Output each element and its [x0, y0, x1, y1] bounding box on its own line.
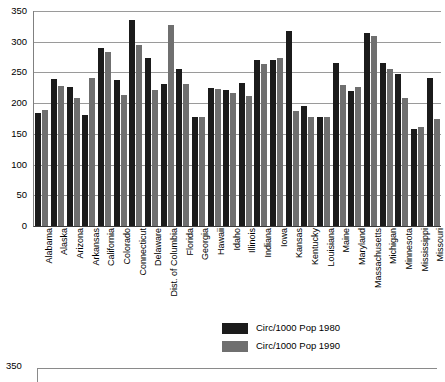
secondary-chart-partial: 350 — [0, 360, 443, 382]
bar — [286, 31, 292, 226]
bars-layer — [34, 11, 441, 226]
plot-wrapper: 050100150200250300350 AlabamaAlaskaArizo… — [0, 0, 443, 240]
bar — [277, 58, 283, 226]
bar-group — [67, 11, 80, 226]
bar — [333, 63, 339, 226]
x-axis-label: Kansas — [295, 228, 304, 258]
bar-group — [348, 11, 361, 226]
bar-group — [98, 11, 111, 226]
x-axis-label: Colorado — [123, 228, 132, 265]
x-axis-label: Michigan — [389, 228, 398, 264]
bar — [261, 64, 267, 226]
x-axis-label: Iowa — [280, 228, 289, 247]
x-axis-label: Connecticut — [139, 228, 148, 276]
legend-swatch-1980 — [222, 323, 248, 334]
bar — [223, 90, 229, 226]
y-axis-tick-250: 250 — [11, 68, 27, 78]
bar-group — [380, 11, 393, 226]
bar — [161, 84, 167, 227]
bar — [74, 98, 80, 226]
x-axis-label: Alaska — [60, 228, 69, 255]
bar — [129, 20, 135, 226]
bar — [270, 60, 276, 226]
bar — [82, 115, 88, 226]
bar — [121, 95, 127, 226]
bar-group — [411, 11, 424, 226]
bar — [364, 33, 370, 226]
bar — [293, 111, 299, 226]
bar — [58, 86, 64, 226]
bar — [199, 117, 205, 226]
bar — [215, 89, 221, 226]
bar-group — [301, 11, 314, 226]
bar — [176, 69, 182, 226]
bar — [387, 69, 393, 226]
bar-group — [51, 11, 64, 226]
bar — [324, 117, 330, 226]
x-axis-label: Massachusetts — [374, 228, 383, 288]
x-axis-label: Hawaii — [217, 228, 226, 255]
x-axis-label: Mississippi — [421, 228, 430, 272]
bar — [402, 98, 408, 226]
x-axis-label: California — [107, 228, 116, 266]
bar-group — [223, 11, 236, 226]
bar-group — [270, 11, 283, 226]
bar — [301, 106, 307, 226]
x-axis-label: Kentucky — [311, 228, 320, 265]
bar-group — [364, 11, 377, 226]
bar — [152, 90, 158, 226]
y-axis-tick-0: 0 — [22, 221, 27, 231]
plot-area — [33, 11, 441, 227]
bar — [192, 117, 198, 226]
bar — [418, 127, 424, 226]
bar-group — [208, 11, 221, 226]
x-axis-label: Dist. of Columbia — [170, 228, 179, 297]
y-axis: 050100150200250300350 — [0, 0, 30, 240]
legend-label-1990: Circ/1000 Pop 1990 — [256, 340, 340, 352]
x-axis-label: Illinois — [248, 228, 257, 253]
bar — [35, 113, 41, 226]
bar — [411, 129, 417, 226]
bar-group — [239, 11, 252, 226]
x-axis-label: Delaware — [154, 228, 163, 266]
y-axis-tick-100: 100 — [11, 160, 27, 170]
bar-group — [35, 11, 48, 226]
x-axis-label: Alabama — [45, 228, 54, 264]
bar-group — [114, 11, 127, 226]
bar — [348, 91, 354, 226]
y-axis-tick-200: 200 — [11, 98, 27, 108]
bar — [254, 60, 260, 226]
bar-group — [161, 11, 174, 226]
bar — [114, 80, 120, 226]
y-axis-tick-50: 50 — [16, 191, 27, 201]
legend-item-1980: Circ/1000 Pop 1980 — [222, 321, 392, 336]
bar — [136, 45, 142, 226]
bar-group — [129, 11, 142, 226]
bar — [230, 93, 236, 226]
x-axis-label: Minnesota — [405, 228, 414, 270]
x-axis-label: Louisiana — [327, 228, 336, 267]
bar-group — [82, 11, 95, 226]
x-axis-label: Idaho — [233, 228, 242, 251]
legend-label-1980: Circ/1000 Pop 1980 — [256, 322, 340, 334]
bar — [98, 48, 104, 226]
bar — [67, 87, 73, 226]
bar-group — [145, 11, 158, 226]
bar-group — [395, 11, 408, 226]
x-axis-labels: AlabamaAlaskaArizonaArkansasCaliforniaCo… — [33, 228, 440, 320]
bar — [317, 117, 323, 226]
bar-group — [286, 11, 299, 226]
bar — [105, 52, 111, 226]
x-axis-label: Arkansas — [92, 228, 101, 266]
bar — [434, 119, 440, 227]
bar-group — [333, 11, 346, 226]
x-axis-label: Georgia — [201, 228, 210, 260]
bar-group — [427, 11, 440, 226]
bar — [308, 117, 314, 226]
legend-swatch-1990 — [222, 341, 248, 352]
bar-group — [192, 11, 205, 226]
bar-group — [254, 11, 267, 226]
y-axis-tick-350: 350 — [11, 6, 27, 16]
bar — [371, 36, 377, 226]
bar — [380, 63, 386, 226]
